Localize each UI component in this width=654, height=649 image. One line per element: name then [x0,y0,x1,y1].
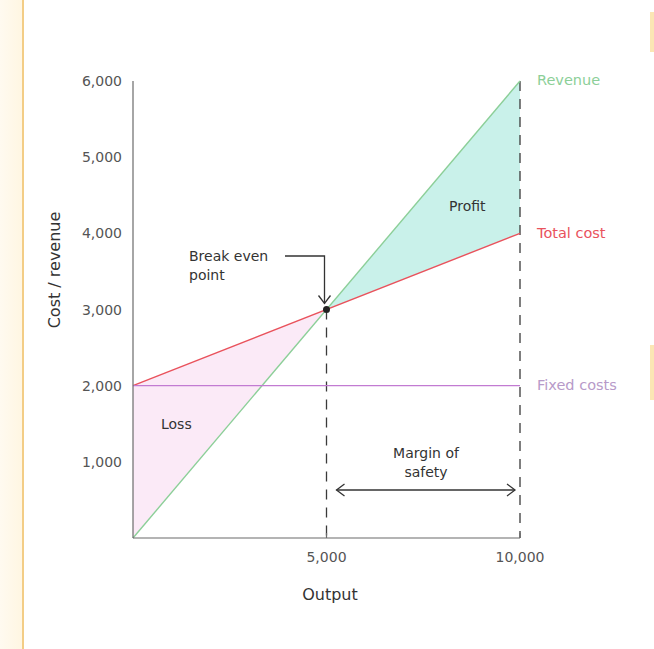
break-even-chart: 1,0002,0003,0004,0005,0006,0005,00010,00… [0,0,654,649]
break-even-arrow-icon [285,256,331,304]
y-tick-label: 5,000 [82,149,122,165]
break-even-label-line1: Break even [189,248,268,264]
margin-of-safety-label-line2: safety [404,464,447,480]
series-label-fixed-costs: Fixed costs [537,377,617,393]
series-label-revenue: Revenue [537,72,600,88]
series-label-total-cost: Total cost [536,225,606,241]
break-even-point-marker [323,306,330,313]
loss-label: Loss [161,416,192,432]
x-tick-label: 5,000 [306,549,346,565]
margin-of-safety-label-line1: Margin of [393,445,460,461]
y-tick-label: 6,000 [82,73,122,89]
y-tick-label: 1,000 [82,454,122,470]
break-even-label-line2: point [189,267,225,283]
y-tick-label: 3,000 [82,302,122,318]
x-tick-label: 10,000 [496,549,545,565]
y-tick-label: 2,000 [82,378,122,394]
profit-label: Profit [449,198,486,214]
y-axis-title: Cost / revenue [45,212,64,329]
margin-of-safety-double-arrow-icon [337,484,516,496]
x-axis-title: Output [302,585,358,604]
y-tick-label: 4,000 [82,225,122,241]
